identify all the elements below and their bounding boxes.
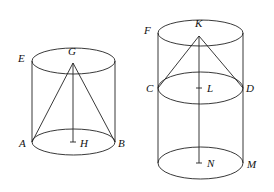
left-cylinder (32, 48, 115, 155)
cone-edge-KD (199, 36, 243, 88)
label-F: F (144, 25, 151, 36)
label-G: G (68, 46, 76, 57)
cone-edge-GA (32, 63, 73, 142)
label-D: D (246, 83, 254, 94)
cone-edge-GB (73, 63, 115, 142)
diagram-canvas (0, 0, 274, 192)
right-cylinder (158, 20, 243, 179)
label-M: M (247, 159, 256, 170)
label-B: B (118, 138, 125, 149)
label-C: C (146, 83, 153, 94)
label-K: K (195, 18, 202, 29)
label-L: L (207, 83, 213, 94)
label-H: H (80, 138, 88, 149)
label-N: N (207, 158, 214, 169)
label-E: E (18, 53, 25, 64)
label-A: A (19, 138, 26, 149)
